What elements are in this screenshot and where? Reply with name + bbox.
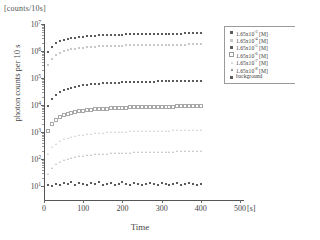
data-point (78, 47, 80, 49)
data-point (137, 81, 139, 83)
y-tick-minor (42, 111, 44, 112)
y-tick-minor (42, 38, 44, 39)
data-point (200, 183, 202, 185)
data-point (94, 153, 96, 155)
x-tick-mark (83, 200, 84, 203)
data-point (129, 184, 131, 186)
x-tick-mark (201, 200, 202, 203)
data-point (176, 33, 178, 35)
data-point (157, 80, 159, 82)
data-point (188, 129, 190, 131)
data-point (59, 184, 61, 186)
data-point (51, 46, 53, 48)
x-tick-label: 300 (156, 204, 168, 213)
data-point (86, 35, 88, 37)
data-point (161, 151, 163, 153)
legend-marker-icon (227, 52, 236, 57)
data-point (114, 184, 116, 186)
data-point (176, 129, 178, 131)
y-tick-mark (41, 186, 44, 187)
data-point (98, 132, 100, 134)
legend-marker-icon (227, 68, 236, 71)
data-point (129, 152, 131, 154)
y-tick-minor (42, 108, 44, 109)
y-tick-minor (42, 160, 44, 161)
y-tick-minor (42, 163, 44, 164)
data-point (90, 182, 92, 184)
data-point (110, 82, 112, 84)
data-point (184, 80, 186, 82)
data-point (165, 151, 167, 153)
data-point (55, 143, 57, 145)
data-point (114, 131, 116, 133)
data-point (168, 184, 170, 186)
data-point (82, 183, 84, 185)
data-point (74, 156, 76, 158)
data-point (110, 45, 112, 47)
legend-series-6[interactable]: 1.65x10-8 [M] (227, 66, 295, 73)
data-point (63, 138, 65, 140)
y-tick-minor (42, 135, 44, 136)
x-tick-label: 200 (116, 204, 128, 213)
data-point (63, 159, 65, 161)
data-point (55, 183, 57, 185)
data-point (172, 80, 174, 82)
y-tick-minor (42, 84, 44, 85)
x-axis-unit: [s] (247, 204, 255, 213)
y-tick-mark (41, 51, 44, 52)
y-tick-mark (41, 78, 44, 79)
data-point (74, 184, 76, 186)
data-point (133, 33, 135, 35)
y-tick-mark (41, 132, 44, 133)
data-point (51, 167, 53, 169)
legend-series-background[interactable]: background (227, 73, 295, 80)
data-point (86, 46, 88, 48)
data-point (180, 150, 182, 152)
data-point (102, 153, 104, 155)
data-point (106, 183, 108, 185)
data-point (121, 81, 123, 83)
data-point (74, 37, 76, 39)
data-point (168, 33, 170, 35)
y-tick-minor (42, 143, 44, 144)
data-point (70, 157, 72, 159)
data-point (153, 151, 155, 153)
data-point (82, 134, 84, 136)
data-point (78, 36, 80, 38)
data-point (172, 183, 174, 185)
data-point (86, 184, 88, 186)
data-point (133, 130, 135, 132)
data-point (55, 163, 57, 165)
data-point (180, 184, 182, 186)
y-tick-minor (42, 167, 44, 168)
data-point (180, 129, 182, 131)
data-point (161, 130, 163, 132)
data-point (133, 151, 135, 153)
data-point (121, 34, 123, 36)
data-point (129, 81, 131, 83)
data-point (63, 50, 65, 52)
data-point (67, 38, 69, 40)
data-point (82, 47, 84, 49)
data-point (67, 49, 69, 51)
data-point (63, 182, 65, 184)
y-tick-minor (42, 32, 44, 33)
data-point (184, 32, 186, 34)
data-point (129, 130, 131, 132)
data-point (110, 34, 112, 36)
y-tick-minor (42, 54, 44, 55)
data-point (192, 129, 194, 131)
data-point (114, 152, 116, 154)
data-point (145, 183, 147, 185)
data-point (200, 150, 202, 152)
data-point (168, 44, 170, 46)
y-tick-minor (42, 138, 44, 139)
y-tick-minor (42, 81, 44, 82)
data-point (70, 136, 72, 138)
y-tick-minor (42, 59, 44, 60)
data-point (47, 51, 49, 53)
data-point (74, 48, 76, 50)
data-point (161, 80, 163, 82)
data-point (188, 32, 190, 34)
data-point (74, 86, 76, 88)
